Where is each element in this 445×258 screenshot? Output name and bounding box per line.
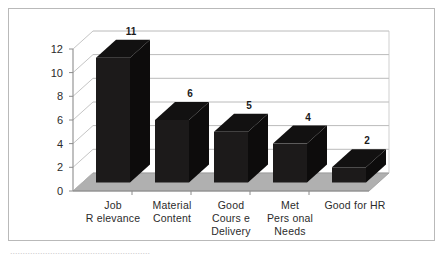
- chart-bar-job-relevance[interactable]: [96, 40, 150, 183]
- bar-value-label-good-for-hr: 2: [349, 136, 385, 146]
- y-tick-label-6: 6: [41, 115, 63, 125]
- bar-value-label-job-relevance: 11: [113, 27, 149, 37]
- chart-bar-material-content[interactable]: [155, 102, 209, 183]
- category-line: Met: [259, 199, 321, 212]
- category-line: Needs: [259, 225, 321, 238]
- bar-value-label-good-course-delivery: 5: [231, 101, 267, 111]
- category-line: Good: [200, 199, 262, 212]
- y-tick-label-0: 0: [41, 186, 63, 196]
- y-tick-label-2: 2: [41, 162, 63, 172]
- category-line: R elevance: [82, 212, 144, 225]
- category-line: Material: [141, 199, 203, 212]
- bar-front-face: [96, 58, 130, 183]
- bar-value-label-met-personal-needs: 4: [290, 113, 326, 123]
- x-category-label-met-personal-needs: Met Pers onal Needs: [259, 199, 321, 238]
- chart-plot-area: 12 10 8 6 4 2 0 11 6 5 4 2 Job R elevanc…: [9, 9, 436, 242]
- category-line: Cours e: [200, 212, 262, 225]
- category-line: Good for HR: [315, 199, 395, 212]
- bar-front-face: [332, 167, 366, 182]
- category-line: Job: [82, 199, 144, 212]
- bar-value-label-material-content: 6: [172, 89, 208, 99]
- category-line: Delivery: [200, 225, 262, 238]
- bar-front-face: [273, 144, 307, 183]
- bar-front-face: [155, 120, 189, 183]
- y-tick-label-4: 4: [41, 139, 63, 149]
- y-tick-label-10: 10: [41, 68, 63, 78]
- category-line: Content: [141, 212, 203, 225]
- y-tick-label-12: 12: [41, 44, 63, 54]
- chart-x-tickmarks: [132, 191, 309, 195]
- bar-front-face: [214, 132, 248, 183]
- x-category-label-job-relevance: Job R elevance: [82, 199, 144, 225]
- figure-caption: ........................................…: [10, 247, 340, 256]
- x-category-label-good-course-delivery: Good Cours e Delivery: [200, 199, 262, 238]
- bar-side-face: [130, 40, 150, 183]
- chart-y-tickmarks: [69, 49, 73, 191]
- x-category-label-good-for-hr: Good for HR: [315, 199, 395, 212]
- y-tick-label-8: 8: [41, 91, 63, 101]
- category-line: Pers onal: [259, 212, 321, 225]
- x-category-label-material-content: Material Content: [141, 199, 203, 225]
- chart-frame: 12 10 8 6 4 2 0 11 6 5 4 2 Job R elevanc…: [8, 8, 435, 241]
